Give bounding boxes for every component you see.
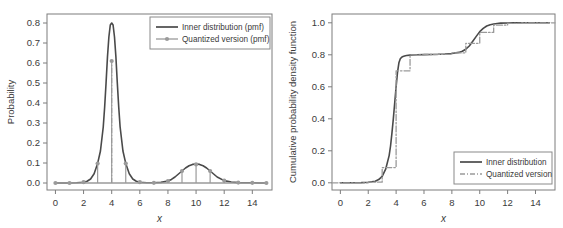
chart-svg-left: 024681012140.00.10.20.30.40.50.60.70.8xP…	[0, 0, 281, 228]
stem-marker	[194, 162, 198, 166]
stem-marker	[67, 181, 71, 185]
legend-box	[150, 17, 270, 49]
y-tick-label: 0.8	[312, 49, 325, 60]
x-tick-label: 10	[474, 197, 485, 208]
stem-marker	[96, 162, 100, 166]
y-tick-label: 0.8	[27, 17, 40, 28]
stem-marker	[124, 162, 128, 166]
stem-marker	[138, 180, 142, 184]
x-tick-label: 4	[393, 197, 398, 208]
y-axis-title: Probability	[5, 80, 16, 125]
x-tick-label: 8	[449, 197, 454, 208]
x-tick-label: 2	[366, 197, 371, 208]
stem-marker	[152, 181, 156, 185]
y-tick-label: 0.5	[27, 77, 40, 88]
legend-swatch-marker	[165, 37, 169, 41]
stem-marker	[264, 181, 268, 185]
y-tick-label: 0.2	[27, 137, 40, 148]
y-tick-label: 0.0	[312, 177, 325, 188]
legend-label: Inner distribution	[486, 158, 547, 167]
stem-marker	[180, 169, 184, 173]
x-tick-label: 12	[502, 197, 513, 208]
y-tick-label: 0.2	[312, 145, 325, 156]
y-tick-label: 0.6	[27, 57, 40, 68]
legend-right: Inner distributionQuantized version	[454, 152, 552, 184]
x-tick-label: 2	[81, 197, 86, 208]
x-tick-label: 0	[53, 197, 58, 208]
legend-label: Quantized version	[486, 170, 552, 179]
chart-panel-right: 024681012140.00.20.40.60.81.0xCumulative…	[281, 0, 562, 228]
x-tick-label: 10	[191, 197, 202, 208]
x-tick-label: 4	[109, 197, 114, 208]
x-tick-label: 8	[165, 197, 170, 208]
stem-marker	[236, 181, 240, 185]
y-axis-title: Cumulative probability density function	[287, 21, 298, 183]
chart-panel-left: 024681012140.00.10.20.30.40.50.60.70.8xP…	[0, 0, 281, 228]
x-axis-title: x	[440, 213, 447, 224]
legend-label: Quantized version (pmf)	[182, 35, 270, 44]
y-tick-label: 0.1	[27, 157, 40, 168]
x-tick-label: 12	[219, 197, 230, 208]
series-stems-quantized	[53, 59, 268, 185]
x-tick-label: 14	[530, 197, 541, 208]
y-tick-label: 0.4	[312, 113, 325, 124]
x-tick-label: 14	[247, 197, 258, 208]
stem-marker	[208, 169, 212, 173]
y-tick-label: 1.0	[312, 17, 325, 28]
legend-left: Inner distribution (pmf)Quantized versio…	[150, 17, 270, 49]
stem-marker	[250, 181, 254, 185]
stem-marker	[222, 179, 226, 183]
y-tick-label: 0.4	[27, 97, 40, 108]
x-tick-label: 6	[421, 197, 426, 208]
legend-label: Inner distribution (pmf)	[182, 23, 264, 32]
x-tick-label: 6	[137, 197, 142, 208]
legend-box	[454, 152, 552, 184]
y-tick-label: 0.6	[312, 81, 325, 92]
y-tick-label: 0.7	[27, 37, 40, 48]
x-axis-title: x	[156, 213, 163, 224]
y-tick-label: 0.3	[27, 117, 40, 128]
stem-marker	[166, 179, 170, 183]
y-tick-label: 0.0	[27, 177, 40, 188]
chart-svg-right: 024681012140.00.20.40.60.81.0xCumulative…	[281, 0, 562, 228]
x-tick-label: 0	[338, 197, 343, 208]
stem-marker	[81, 180, 85, 184]
figure-container: 024681012140.00.10.20.30.40.50.60.70.8xP…	[0, 0, 563, 228]
stem-marker	[53, 181, 57, 185]
